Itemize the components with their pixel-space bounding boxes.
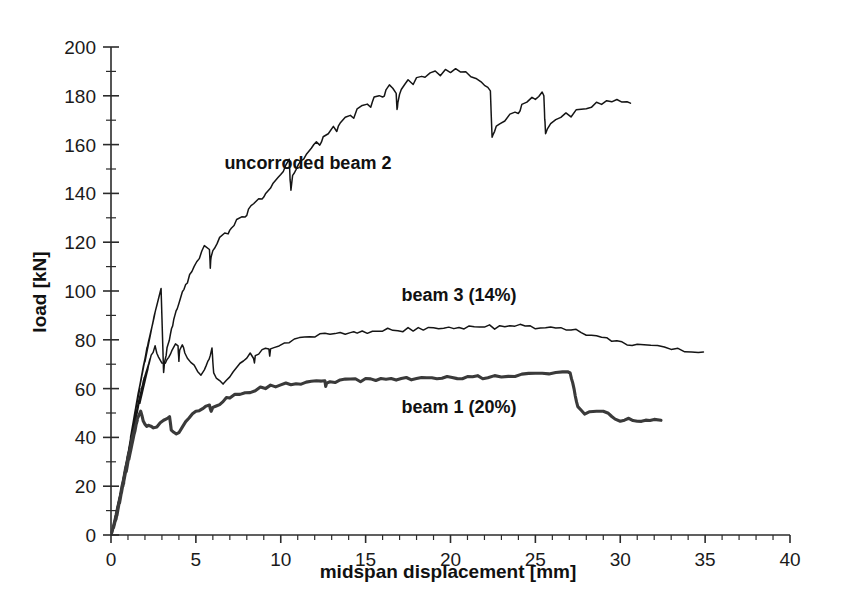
y-tick-label: 80 [75, 330, 96, 351]
series-annotation-2: beam 3 (14%) [401, 285, 516, 305]
x-tick-label: 5 [191, 549, 202, 570]
load-displacement-chart: 0510152025303540020406080100120140160180… [0, 0, 845, 608]
x-axis-title: midspan displacement [mm] [320, 561, 577, 582]
y-tick-label: 160 [64, 135, 96, 156]
series-annotation-1: uncorroded beam 2 [224, 153, 391, 173]
y-tick-label: 60 [75, 379, 96, 400]
x-tick-label: 0 [106, 549, 117, 570]
y-tick-label: 140 [64, 183, 96, 204]
series-annotation-3: beam 1 (20%) [401, 397, 516, 417]
x-tick-label: 10 [270, 549, 291, 570]
x-tick-label: 30 [610, 549, 631, 570]
y-tick-label: 100 [64, 281, 96, 302]
x-tick-label: 40 [779, 549, 800, 570]
y-tick-label: 0 [85, 525, 96, 546]
y-tick-label: 40 [75, 427, 96, 448]
y-axis-title: load [kN] [29, 251, 50, 332]
y-tick-label: 120 [64, 232, 96, 253]
y-tick-label: 20 [75, 476, 96, 497]
figure-canvas: 0510152025303540020406080100120140160180… [0, 0, 845, 608]
y-tick-label: 180 [64, 86, 96, 107]
y-tick-label: 200 [64, 37, 96, 58]
x-tick-label: 35 [695, 549, 716, 570]
